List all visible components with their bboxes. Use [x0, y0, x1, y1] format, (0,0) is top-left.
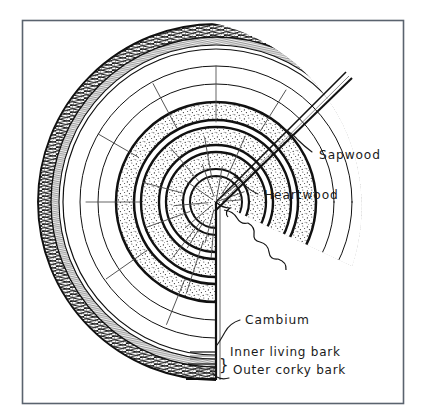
brace-icon: } — [219, 356, 229, 374]
label-inner-living-bark: Inner living bark — [230, 345, 341, 359]
label-outer-corky-bark: Outer corky bark — [233, 363, 346, 377]
figure-canvas: } Sapwood Heartwood Cambium Inner living… — [0, 0, 429, 420]
radial-cut-face-vertical — [216, 202, 220, 380]
label-heartwood: Heartwood — [264, 188, 339, 202]
tree-cross-section-diagram: } Sapwood Heartwood Cambium Inner living… — [0, 0, 429, 420]
label-cambium: Cambium — [245, 313, 310, 327]
leader-cambium — [217, 320, 240, 345]
label-sapwood: Sapwood — [319, 148, 381, 162]
